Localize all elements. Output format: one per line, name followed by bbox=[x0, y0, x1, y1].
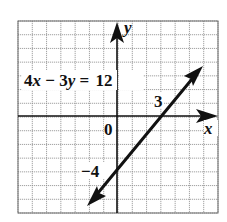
grid bbox=[18, 21, 218, 213]
equation-label: 4x − 3y = 12 bbox=[24, 71, 112, 90]
origin-label: 0 bbox=[104, 120, 113, 139]
coordinate-graph: 4x − 3y = 12 y x 0 3 −4 bbox=[0, 0, 227, 222]
equation-label-background-right bbox=[119, 70, 143, 90]
y-axis-label: y bbox=[122, 18, 132, 37]
y-intercept-label: −4 bbox=[81, 162, 100, 181]
x-intercept-label: 3 bbox=[154, 92, 163, 111]
x-axis-label: x bbox=[203, 119, 213, 138]
